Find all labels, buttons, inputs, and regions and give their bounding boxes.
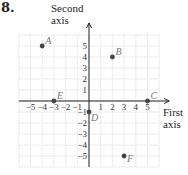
- point-b: [110, 55, 115, 60]
- x-tick-label: 1: [98, 102, 103, 112]
- point-a: [40, 44, 45, 49]
- point-label-d: D: [90, 112, 99, 123]
- y-tick-label: 5: [83, 41, 88, 51]
- y-tick-label: −4: [77, 140, 87, 150]
- x-tick-label: −2: [61, 102, 71, 112]
- x-tick-label: −4: [37, 102, 47, 112]
- y-tick-label: −1: [77, 107, 87, 117]
- coordinate-plane: −5−4−3−2−112345−5−4−3−2−112345 ABCDEF: [0, 0, 188, 175]
- x-tick-label: −3: [49, 102, 59, 112]
- y-tick-label: −3: [77, 129, 87, 139]
- x-tick-label: 4: [134, 102, 139, 112]
- point-c: [145, 99, 150, 104]
- x-tick-label: −5: [26, 102, 36, 112]
- y-tick-label: 3: [83, 63, 88, 73]
- point-label-b: B: [115, 46, 121, 57]
- point-label-a: A: [44, 35, 52, 46]
- points: ABCDEF: [40, 35, 158, 164]
- x-tick-label: 5: [145, 102, 150, 112]
- y-tick-label: 4: [83, 52, 88, 62]
- point-label-c: C: [151, 90, 158, 101]
- y-tick-label: 2: [83, 74, 88, 84]
- y-tick-label: 1: [83, 85, 88, 95]
- y-tick-label: −2: [77, 118, 87, 128]
- x-tick-label: 3: [122, 102, 127, 112]
- x-tick-label: 2: [110, 102, 115, 112]
- point-f: [122, 154, 127, 159]
- point-label-e: E: [56, 90, 63, 101]
- point-label-f: F: [126, 153, 134, 164]
- y-tick-label: −5: [77, 151, 87, 161]
- point-e: [52, 99, 57, 104]
